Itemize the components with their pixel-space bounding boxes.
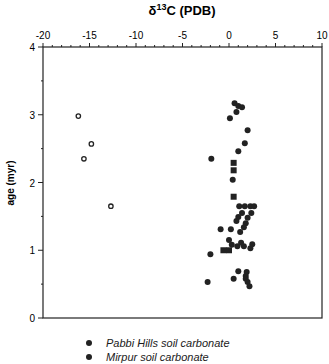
data-point (230, 177, 236, 183)
data-point (207, 251, 213, 257)
data-point (249, 241, 255, 247)
data-point (233, 218, 239, 224)
data-point (251, 203, 257, 209)
filled-circle-icon (86, 354, 92, 360)
data-point (235, 148, 241, 154)
data-point (245, 215, 251, 221)
x-tick-label: -5 (178, 30, 187, 41)
x-tick-label: -20 (36, 30, 51, 41)
data-point (237, 229, 243, 235)
y-tick-label: 2 (29, 178, 35, 189)
data-point (241, 224, 247, 230)
legend-item-mirpur: Mirpur soil carbonate (80, 350, 230, 364)
x-axis: -20-15-10-50510 (36, 30, 328, 47)
data-point (208, 156, 214, 162)
data-point (76, 114, 80, 118)
legend-label: Pabbi Hills soil carbonate (106, 337, 230, 349)
data-point (231, 160, 237, 166)
y-axis-label: age (myr) (5, 160, 16, 205)
data-point (205, 279, 211, 285)
data-point (82, 157, 86, 161)
data-point (226, 247, 232, 253)
data-points (76, 100, 257, 289)
y-axis: 01234 (29, 42, 43, 324)
y-tick-label: 4 (29, 42, 35, 53)
data-point (218, 226, 224, 232)
legend-item-pabbi: Pabbi Hills soil carbonate (80, 336, 230, 350)
filled-circle-icon (86, 340, 92, 346)
chart-title: δ13C (PDB) (148, 2, 215, 18)
data-point (238, 240, 244, 246)
data-point (89, 142, 93, 146)
data-point (246, 283, 252, 289)
data-point (239, 104, 245, 110)
data-point (242, 140, 248, 146)
legend: Pabbi Hills soil carbonate Mirpur soil c… (80, 336, 230, 364)
x-tick-label: -10 (129, 30, 144, 41)
data-point (236, 203, 242, 209)
data-point (235, 268, 241, 274)
y-tick-label: 1 (29, 245, 35, 256)
x-tick-label: 5 (273, 30, 279, 41)
data-point (231, 276, 237, 282)
plot-frame (43, 47, 322, 318)
x-tick-label: 0 (226, 30, 232, 41)
data-point (231, 167, 237, 173)
data-point (248, 210, 254, 216)
data-point (233, 109, 239, 115)
data-point (228, 226, 234, 232)
y-tick-label: 3 (29, 110, 35, 121)
x-tick-label: -15 (82, 30, 97, 41)
x-tick-label: 10 (316, 30, 328, 41)
data-point (227, 115, 233, 121)
data-point (220, 247, 226, 253)
data-point (245, 127, 251, 133)
data-point (231, 194, 237, 200)
y-tick-label: 0 (29, 313, 35, 324)
legend-label: Mirpur soil carbonate (106, 351, 209, 363)
data-point (242, 203, 248, 209)
data-point (109, 204, 113, 208)
data-point (229, 242, 235, 248)
